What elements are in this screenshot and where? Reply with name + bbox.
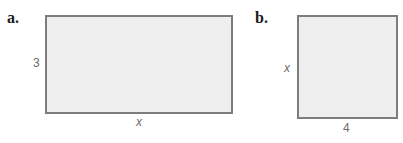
rectangle-b-width-label: 4	[343, 121, 350, 135]
rectangle-a-height-label: 3	[33, 56, 40, 70]
rectangle-b	[297, 15, 398, 119]
rectangle-b-height-label: x	[284, 61, 290, 75]
rectangle-a	[45, 15, 233, 114]
figure-b-label: b.	[255, 9, 268, 27]
figure-a-label: a.	[7, 9, 19, 27]
rectangle-a-width-label: x	[136, 115, 142, 129]
